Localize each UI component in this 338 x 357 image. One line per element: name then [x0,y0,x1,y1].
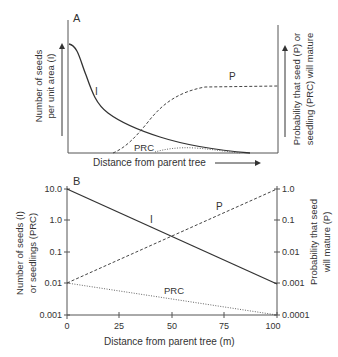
panel-a-curve-i [69,44,250,153]
panel-b-right-ticks: 1.0 0.1 0.01 0.001 0.0001 [274,184,310,320]
tick-x-0: 0 [64,321,69,331]
tick-x-3: 75 [219,321,229,331]
tick-left-3: 0.01 [44,278,62,288]
panel-a-ylabel-right-2: seedling (PRC) will mature [304,33,315,145]
panel-b-label-prc: PRC [164,285,184,296]
panel-b-ylabel-left-1: Number of seeds (I) [14,211,25,295]
panel-a-ylabel-left-2: per unit area (I) [45,54,56,119]
panel-b-ylabel-right-1: Probability that seed [308,199,319,285]
panel-b: B 10.0 1.0 0.1 0.01 0.001 1.0 0.1 [14,175,332,347]
panel-a-label-i: I [95,86,98,97]
tick-x-4: 100 [265,321,280,331]
tick-left-4: 0.001 [39,310,62,320]
panel-a-label: A [73,12,81,24]
panel-b-label-p: P [216,201,223,212]
tick-right-2: 0.01 [282,247,300,257]
panel-a-label-p: P [229,71,236,82]
tick-left-0: 10.0 [44,184,62,194]
panel-a-ylabel-right-1: Probability that seed (P) or [291,33,302,145]
panel-b-label-i: I [150,214,153,225]
tick-left-1: 1.0 [49,215,62,225]
tick-right-4: 0.0001 [282,310,310,320]
panel-b-ylabel-right-2: will mature (P) [321,212,332,274]
panel-a-xlabel: Distance from parent tree [93,157,206,168]
tick-left-2: 0.1 [49,247,62,257]
panel-a-label-prc: PRC [134,142,154,153]
panel-b-left-ticks: 10.0 1.0 0.1 0.01 0.001 [39,184,70,320]
tick-x-2: 50 [167,321,177,331]
tick-right-3: 0.001 [282,278,305,288]
panel-b-xlabel: Distance from parent tree (m) [104,336,235,347]
panel-b-label: B [73,175,80,187]
tick-x-1: 25 [114,321,124,331]
tick-right-0: 1.0 [282,184,295,194]
panel-a-ylabel-left-1: Number of seeds [33,50,44,123]
tick-right-1: 0.1 [282,215,295,225]
panel-a: A Number of seeds per unit area (I) Prob… [33,12,315,168]
panel-b-ylabel-left-2: or seedlings (PRC) [27,213,38,293]
figure: A Number of seeds per unit area (I) Prob… [0,0,338,357]
